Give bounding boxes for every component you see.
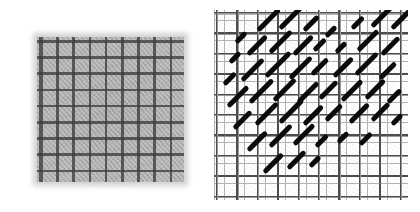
stroke-segment	[222, 71, 237, 86]
stroke-segment	[234, 30, 247, 43]
stroke-segment	[380, 35, 401, 56]
film-cross-particles	[37, 37, 184, 182]
stroke-segment	[332, 56, 354, 78]
stroke-segment	[240, 57, 265, 82]
stroke-segment	[390, 10, 408, 30]
stroke-segment	[354, 51, 379, 76]
stroke-segment	[348, 102, 370, 124]
stroke-segment	[226, 84, 249, 107]
stroke-segment	[310, 57, 329, 76]
stroke-segment	[246, 34, 268, 56]
stroke-segment	[228, 50, 241, 63]
stroke-segment	[292, 34, 314, 56]
detected-stroke-layer	[214, 10, 408, 200]
stroke-segment	[312, 37, 327, 52]
stroke-segment	[302, 14, 320, 32]
stroke-segment	[340, 78, 363, 101]
woven-mesh-area	[10, 8, 206, 206]
stroke-segment	[302, 104, 324, 126]
stroke-segment	[386, 88, 402, 104]
stroke-segment	[262, 152, 284, 174]
stroke-segment	[324, 24, 337, 37]
stroke-segment	[334, 40, 347, 53]
stroke-segment	[364, 78, 386, 100]
stroke-segment	[232, 109, 253, 130]
specimen-film	[37, 37, 184, 182]
stroke-segment	[268, 29, 293, 54]
stroke-segment	[324, 103, 343, 122]
stroke-segment	[248, 78, 274, 104]
stroke-segment	[336, 130, 349, 143]
panel-left-micrograph	[0, 0, 208, 212]
stroke-segment	[308, 154, 321, 167]
stroke-segment	[246, 130, 268, 152]
binarised-map-area	[214, 10, 408, 200]
stroke-segment	[390, 112, 403, 125]
two-panel-figure	[0, 0, 420, 212]
stroke-segment	[292, 122, 315, 145]
stroke-segment	[278, 98, 304, 124]
stroke-segment	[358, 131, 373, 146]
stroke-segment	[286, 149, 307, 170]
stroke-segment	[272, 77, 297, 102]
stroke-segment	[314, 133, 329, 148]
stroke-segment	[264, 50, 292, 78]
stroke-segment	[318, 79, 339, 100]
stroke-segment	[278, 10, 304, 30]
stroke-segment	[378, 61, 397, 80]
stroke-segment	[356, 28, 379, 51]
stroke-segment	[370, 101, 391, 122]
stroke-segment	[288, 55, 313, 80]
panel-right-stroke-map	[208, 0, 420, 212]
stroke-segment	[350, 15, 365, 30]
stroke-segment	[268, 123, 293, 148]
stroke-segment	[254, 101, 279, 126]
stroke-segment	[256, 10, 281, 32]
